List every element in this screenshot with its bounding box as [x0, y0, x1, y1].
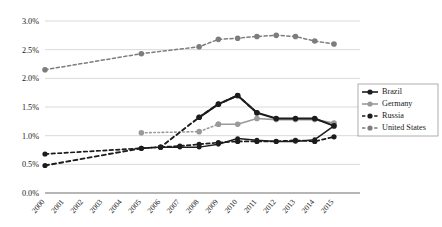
legend-label-germany: Germany [382, 99, 413, 108]
x-axis-tick-label: 2013 [280, 197, 297, 215]
x-axis-tick-label: 2004 [107, 197, 124, 215]
data-point-brazil [274, 139, 279, 144]
data-point-germany [235, 121, 241, 127]
data-point-brazil [158, 145, 163, 150]
y-axis-tick-label: 0.0% [22, 189, 39, 198]
x-axis-tick-label: 2005 [126, 197, 143, 215]
data-point-russia [139, 146, 144, 151]
y-axis-tick-label: 1.0% [22, 132, 39, 141]
y-axis-tick-label: 2.0% [22, 74, 39, 83]
series-line-brazil [161, 126, 334, 147]
series-line-russia [45, 137, 334, 154]
x-axis-tick-label: 2009 [203, 197, 220, 215]
legend-marker-brazil [367, 89, 372, 94]
y-axis-tick-label: 1.5% [22, 103, 39, 112]
data-point-russia [331, 134, 336, 139]
legend-marker-united-states [367, 125, 372, 130]
y-axis-tick-label: 2.5% [22, 46, 39, 55]
data-point-united-states [216, 37, 222, 43]
x-axis-tick-label: 2006 [145, 197, 162, 215]
data-point-brazil [254, 110, 260, 116]
x-axis-tick-label: 2015 [319, 197, 336, 215]
data-point-germany [254, 116, 260, 122]
x-axis-tick-label: 2010 [223, 197, 240, 215]
x-axis-tick-labels: 2000200120022003200420052006200720082009… [30, 197, 336, 215]
data-point-united-states [273, 33, 279, 39]
data-point-brazil [196, 115, 202, 121]
legend-marker-russia [367, 113, 372, 118]
data-point-brazil [235, 93, 241, 99]
x-axis-tick-label: 2001 [49, 197, 66, 215]
data-point-brazil [255, 138, 260, 143]
x-axis-tick-label: 2008 [184, 197, 201, 215]
y-axis-tick-label: 0.5% [22, 160, 39, 169]
x-axis-tick-label: 2002 [68, 197, 85, 215]
legend-marker-germany [367, 101, 372, 106]
data-point-united-states [254, 34, 260, 40]
data-point-united-states [331, 41, 337, 47]
data-point-brazil [312, 137, 317, 142]
series-line-russia [45, 96, 257, 166]
data-point-united-states [42, 67, 48, 73]
data-point-germany [216, 121, 222, 127]
data-point-brazil [216, 101, 222, 107]
x-axis-tick-label: 2014 [300, 197, 317, 215]
legend-label-brazil: Brazil [382, 87, 403, 96]
data-point-germany [196, 129, 202, 135]
data-point-brazil [216, 142, 221, 147]
data-point-brazil [331, 123, 337, 129]
data-point-united-states [312, 38, 318, 44]
x-axis-tick-label: 2007 [165, 197, 182, 215]
data-point-brazil [293, 139, 298, 144]
x-axis-tick-label: 2003 [88, 197, 105, 215]
data-point-united-states [139, 51, 145, 57]
x-axis-tick-label: 2012 [261, 197, 278, 215]
data-point-russia [42, 151, 47, 156]
data-point-united-states [235, 35, 241, 41]
series-line-united-states [45, 35, 334, 69]
legend-label-russia: Russia [382, 111, 404, 120]
data-point-russia [42, 163, 47, 168]
data-point-united-states [196, 44, 202, 50]
series-line-germany [141, 124, 218, 133]
chart-canvas: 0.0%0.5%1.0%1.5%2.0%2.5%3.0% 20002001200… [0, 0, 442, 227]
gridlines [45, 21, 360, 193]
data-point-brazil [177, 145, 182, 150]
data-point-brazil [293, 116, 299, 122]
legend-label-united-states: United States [382, 123, 426, 132]
chart-legend: BrazilGermanyRussiaUnited States [358, 84, 438, 136]
data-point-brazil [312, 116, 318, 122]
x-axis-tick-label: 2000 [30, 197, 47, 215]
data-point-brazil [273, 116, 279, 122]
data-point-germany [139, 130, 145, 136]
y-axis-tick-labels: 0.0%0.5%1.0%1.5%2.0%2.5%3.0% [22, 17, 39, 198]
line-chart: 0.0%0.5%1.0%1.5%2.0%2.5%3.0% 20002001200… [0, 0, 442, 227]
y-axis-tick-label: 3.0% [22, 17, 39, 26]
data-point-brazil [235, 136, 240, 141]
data-point-united-states [293, 34, 299, 40]
series-layer [42, 33, 337, 169]
data-point-brazil [197, 145, 202, 150]
x-axis-tick-label: 2011 [242, 197, 259, 214]
